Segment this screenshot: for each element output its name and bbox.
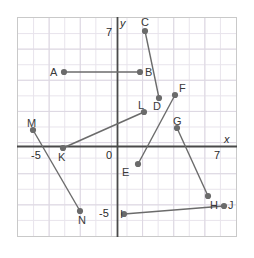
point-label-i: I <box>120 209 123 220</box>
segment-i-j <box>124 206 224 214</box>
point-label-c: C <box>141 17 149 28</box>
point-j <box>221 203 227 209</box>
point-label-a: A <box>50 67 57 78</box>
point-a <box>61 69 67 75</box>
point-label-m: M <box>27 118 36 129</box>
x-tick-neg5-label: -5 <box>31 150 41 161</box>
point-e <box>135 161 141 167</box>
segment-m-n <box>33 130 80 211</box>
point-b <box>137 69 143 75</box>
point-label-h: H <box>210 200 218 211</box>
point-f <box>172 92 178 98</box>
segment-c-d <box>145 31 159 98</box>
point-label-l: L <box>138 100 144 111</box>
point-label-d: D <box>153 101 161 112</box>
x-tick-7-label: 7 <box>214 150 220 161</box>
point-label-f: F <box>179 83 186 94</box>
y-tick-neg5-label: -5 <box>99 208 109 219</box>
point-c <box>142 28 148 34</box>
point-label-j: J <box>228 200 234 211</box>
point-label-n: N <box>78 215 86 226</box>
segment-k-l <box>63 112 144 148</box>
y-tick-7-label: 7 <box>106 27 112 38</box>
x-axis-label: x <box>224 134 230 145</box>
point-label-b: B <box>145 67 152 78</box>
point-label-e: E <box>122 167 129 178</box>
plot-overlay <box>0 0 254 258</box>
y-axis-label: y <box>120 18 126 29</box>
point-label-k: K <box>58 152 65 163</box>
segment-g-h <box>177 128 208 196</box>
origin-label: 0 <box>106 150 112 161</box>
point-label-g: G <box>173 116 182 127</box>
coordinate-plane: y x 7 -5 -5 0 7 ABCDEFGHIJKLMN <box>0 0 254 258</box>
